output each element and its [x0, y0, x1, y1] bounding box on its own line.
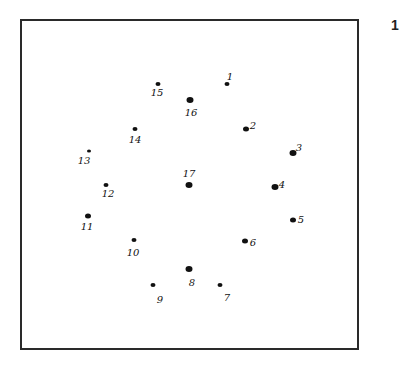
point-label-14: 14 — [129, 135, 142, 145]
point-dot-7 — [218, 283, 223, 287]
point-label-6: 6 — [250, 238, 256, 248]
point-label-1: 1 — [227, 72, 233, 82]
point-dot-8 — [186, 266, 193, 272]
point-label-10: 10 — [127, 248, 140, 258]
point-dot-11 — [85, 214, 91, 219]
point-label-13: 13 — [78, 156, 91, 166]
point-dot-10 — [132, 238, 137, 242]
point-dot-5 — [290, 218, 296, 223]
point-dot-16 — [187, 97, 194, 103]
point-label-3: 3 — [296, 143, 302, 153]
figure-number: 1 — [391, 17, 399, 33]
point-label-15: 15 — [151, 88, 164, 98]
point-dot-13 — [87, 150, 91, 153]
point-label-9: 9 — [157, 295, 163, 305]
point-label-5: 5 — [298, 215, 304, 225]
point-dot-1 — [225, 82, 230, 86]
point-label-8: 8 — [189, 278, 195, 288]
point-label-7: 7 — [224, 293, 230, 303]
point-dot-17 — [186, 182, 193, 188]
point-label-2: 2 — [250, 121, 256, 131]
point-label-4: 4 — [279, 180, 285, 190]
point-dot-9 — [151, 283, 156, 287]
point-dot-2 — [243, 127, 249, 132]
point-dot-4 — [272, 184, 279, 190]
point-label-16: 16 — [185, 108, 198, 118]
point-label-11: 11 — [81, 222, 94, 232]
point-label-17: 17 — [183, 169, 196, 179]
point-dot-6 — [242, 239, 248, 244]
point-dot-15 — [156, 82, 161, 86]
point-dot-14 — [133, 127, 138, 131]
point-label-12: 12 — [102, 189, 115, 199]
point-dot-12 — [104, 183, 109, 187]
